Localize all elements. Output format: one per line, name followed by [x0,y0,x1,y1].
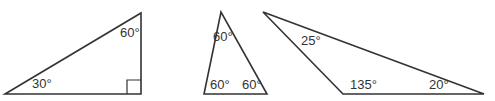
angle-label-135: 135° [350,78,377,91]
angle-label-60-left: 60° [210,78,230,91]
right-angle-marker [127,80,141,94]
angle-label-60-top: 60° [213,30,233,43]
angle-label-20: 20° [429,78,449,91]
angle-label-30: 30° [32,77,52,90]
angle-label-25: 25° [301,34,321,47]
angle-label-60-right: 60° [242,78,262,91]
angle-label-60: 60° [120,26,140,39]
